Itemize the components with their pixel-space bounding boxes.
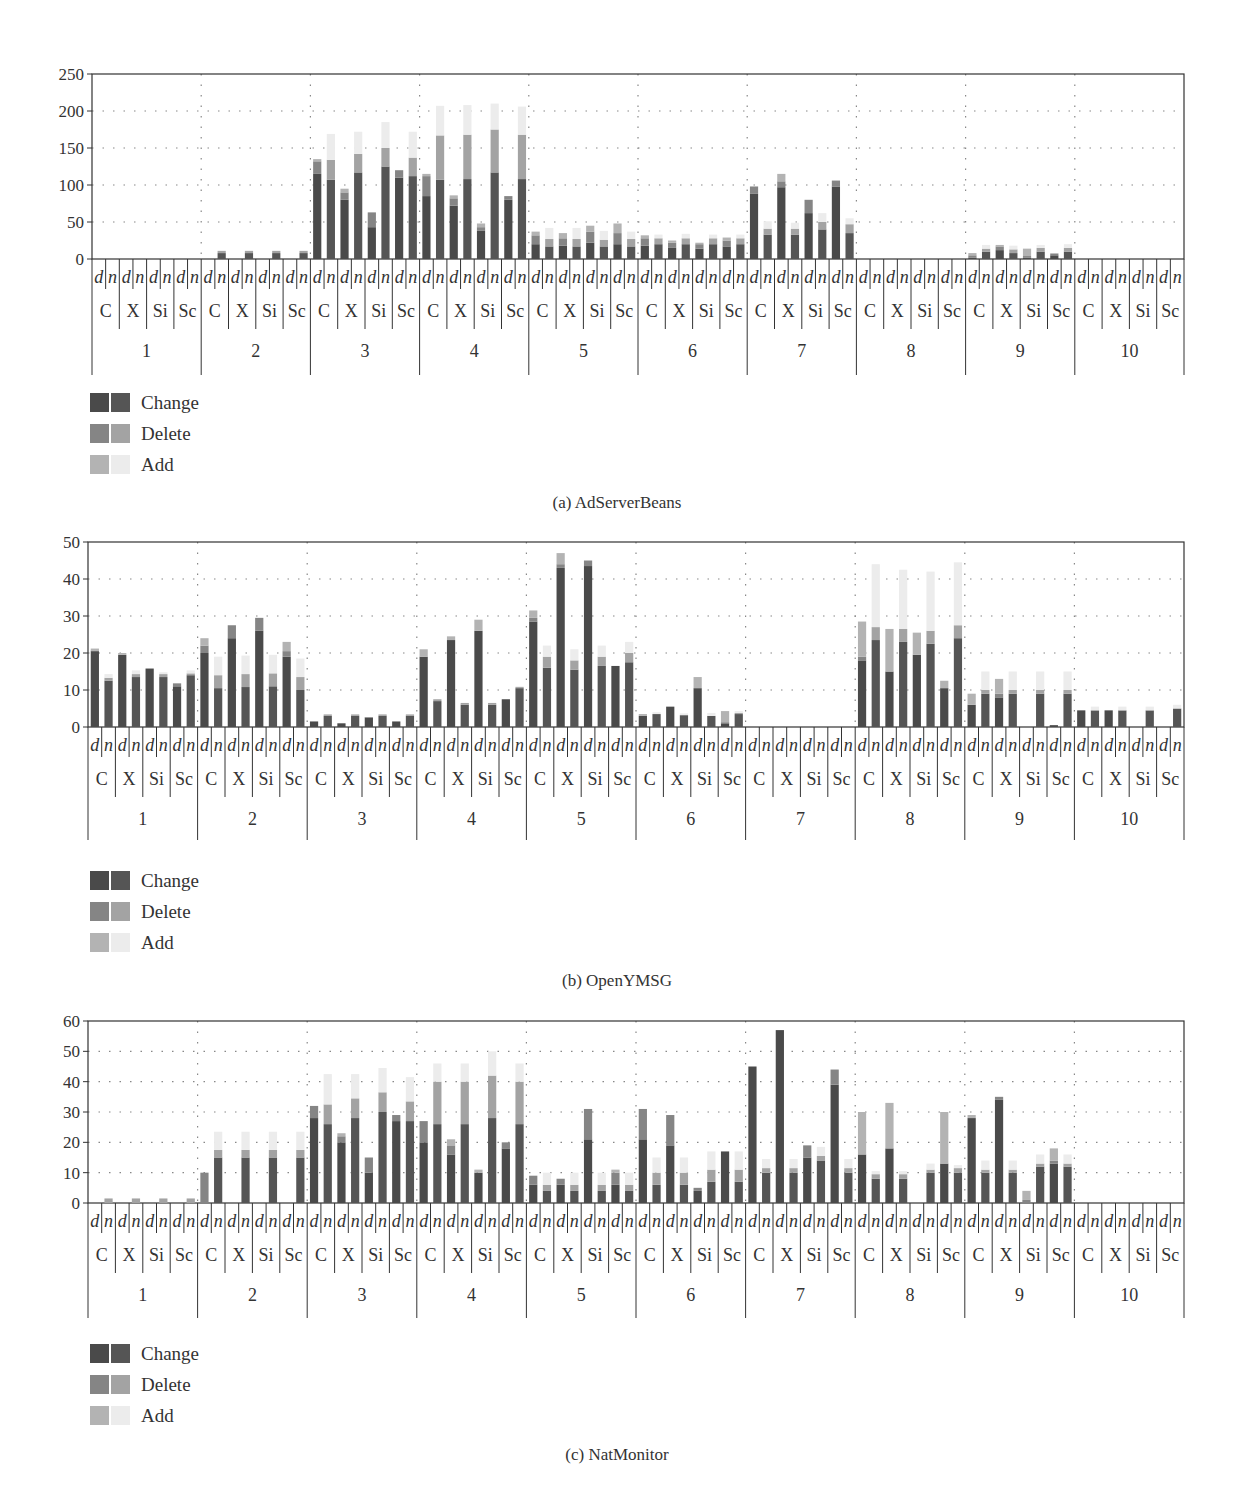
bar-label: d (1049, 1211, 1059, 1231)
bar-segment-change (831, 1085, 839, 1203)
bar-segment-change (968, 1118, 976, 1203)
bar-label: n (488, 1211, 497, 1231)
bar-label: n (652, 1211, 661, 1231)
group-label: 1 (138, 1285, 147, 1305)
bar-segment-add (570, 1173, 578, 1185)
subgroup-label: C (205, 1245, 217, 1265)
bar-segment-add (337, 1133, 345, 1136)
bar-segment-add (926, 1164, 934, 1170)
bar-segment-delete (392, 1115, 400, 1121)
bar-segment-delete (214, 1150, 222, 1158)
bar-label: n (953, 1211, 962, 1231)
bar-segment-add (940, 1112, 948, 1164)
bar-segment-delete (557, 1179, 565, 1185)
group-label: 4 (467, 1285, 476, 1305)
bar-segment-change (872, 1179, 880, 1203)
chart-panel-natmonitor: 0102030405060dndndndndndndndndndndndndnd… (0, 0, 1234, 1492)
bar-segment-delete (872, 1174, 880, 1179)
bar-segment-change (214, 1158, 222, 1204)
bar-segment-delete (981, 1170, 989, 1173)
bar-segment-change (502, 1148, 510, 1203)
subgroup-label: X (451, 1245, 464, 1265)
subgroup-label: Sc (1161, 1245, 1179, 1265)
bar-segment-change (351, 1118, 359, 1203)
bar-segment-change (269, 1158, 277, 1204)
bar-segment-add (735, 1151, 743, 1169)
bar-segment-delete (461, 1082, 469, 1124)
bar-segment-change (844, 1173, 852, 1203)
bar-label: n (871, 1211, 880, 1231)
bar-segment-add (351, 1074, 359, 1098)
subgroup-label: Si (368, 1245, 383, 1265)
subgroup-label: Si (916, 1245, 931, 1265)
bar-segment-change (461, 1124, 469, 1203)
subgroup-label: X (123, 1245, 136, 1265)
subgroup-label: Sc (1052, 1245, 1070, 1265)
bar-segment-delete (831, 1070, 839, 1085)
bar-label: n (296, 1211, 305, 1231)
bar-label: d (775, 1211, 785, 1231)
bar-segment-change (625, 1191, 633, 1203)
bar-segment-delete (1022, 1200, 1030, 1203)
bar-label: d (282, 1211, 292, 1231)
bar-segment-change (858, 1154, 866, 1203)
bar-label: n (323, 1211, 332, 1231)
legend-swatch (111, 1344, 130, 1363)
bar-label: n (268, 1211, 277, 1231)
bar-label: n (707, 1211, 716, 1231)
subgroup-label: Sc (394, 1245, 412, 1265)
subgroup-label: Si (1135, 1245, 1150, 1265)
bar-label: d (1022, 1211, 1032, 1231)
bar-label: d (1104, 1211, 1114, 1231)
bar-label: d (638, 1211, 648, 1231)
bar-segment-change (378, 1112, 386, 1203)
bar-label: d (337, 1211, 347, 1231)
bar-segment-delete (598, 1185, 606, 1191)
bar-label: n (844, 1211, 853, 1231)
bar-segment-change (940, 1164, 948, 1203)
group-label: 10 (1120, 1285, 1138, 1305)
bar-segment-change (762, 1173, 770, 1203)
y-tick-label: 30 (63, 1103, 80, 1122)
bar-label: d (200, 1211, 210, 1231)
subgroup-label: C (644, 1245, 656, 1265)
bar-segment-delete (1036, 1164, 1044, 1167)
bar-segment-delete (1050, 1161, 1058, 1164)
bar-segment-delete (159, 1198, 167, 1203)
legend-swatch (90, 1344, 109, 1363)
bar-label: n (433, 1211, 442, 1231)
bar-label: n (460, 1211, 469, 1231)
bar-label: d (721, 1211, 731, 1231)
bar-label: d (912, 1211, 922, 1231)
bar-segment-delete (365, 1158, 373, 1173)
bar-label: n (926, 1211, 935, 1231)
bar-label: d (803, 1211, 813, 1231)
bar-segment-add (1022, 1191, 1030, 1200)
subgroup-label: Si (807, 1245, 822, 1265)
bar-segment-add (872, 1171, 880, 1174)
bar-label: n (351, 1211, 360, 1231)
bar-label: d (556, 1211, 566, 1231)
legend-label: Change (141, 1343, 199, 1365)
bar-segment-delete (639, 1109, 647, 1139)
bar-label: n (981, 1211, 990, 1231)
bar-segment-change (803, 1158, 811, 1204)
bar-segment-delete (269, 1150, 277, 1158)
bar-segment-add (885, 1103, 893, 1149)
bar-segment-delete (1009, 1170, 1017, 1173)
y-tick-label: 20 (63, 1133, 80, 1152)
bar-label: d (90, 1211, 100, 1231)
bar-label: n (734, 1211, 743, 1231)
bar-segment-change (885, 1148, 893, 1203)
bar-segment-delete (652, 1173, 660, 1185)
bar-segment-change (1009, 1173, 1017, 1203)
bar-segment-add (817, 1147, 825, 1156)
bar-label: d (419, 1211, 429, 1231)
bar-segment-add (433, 1063, 441, 1081)
bar-segment-add (981, 1161, 989, 1170)
bar-segment-delete (666, 1115, 674, 1145)
subgroup-label: Sc (504, 1245, 522, 1265)
bar-label: n (131, 1211, 140, 1231)
legend-label: Delete (141, 1374, 191, 1396)
bar-segment-add (324, 1074, 332, 1104)
